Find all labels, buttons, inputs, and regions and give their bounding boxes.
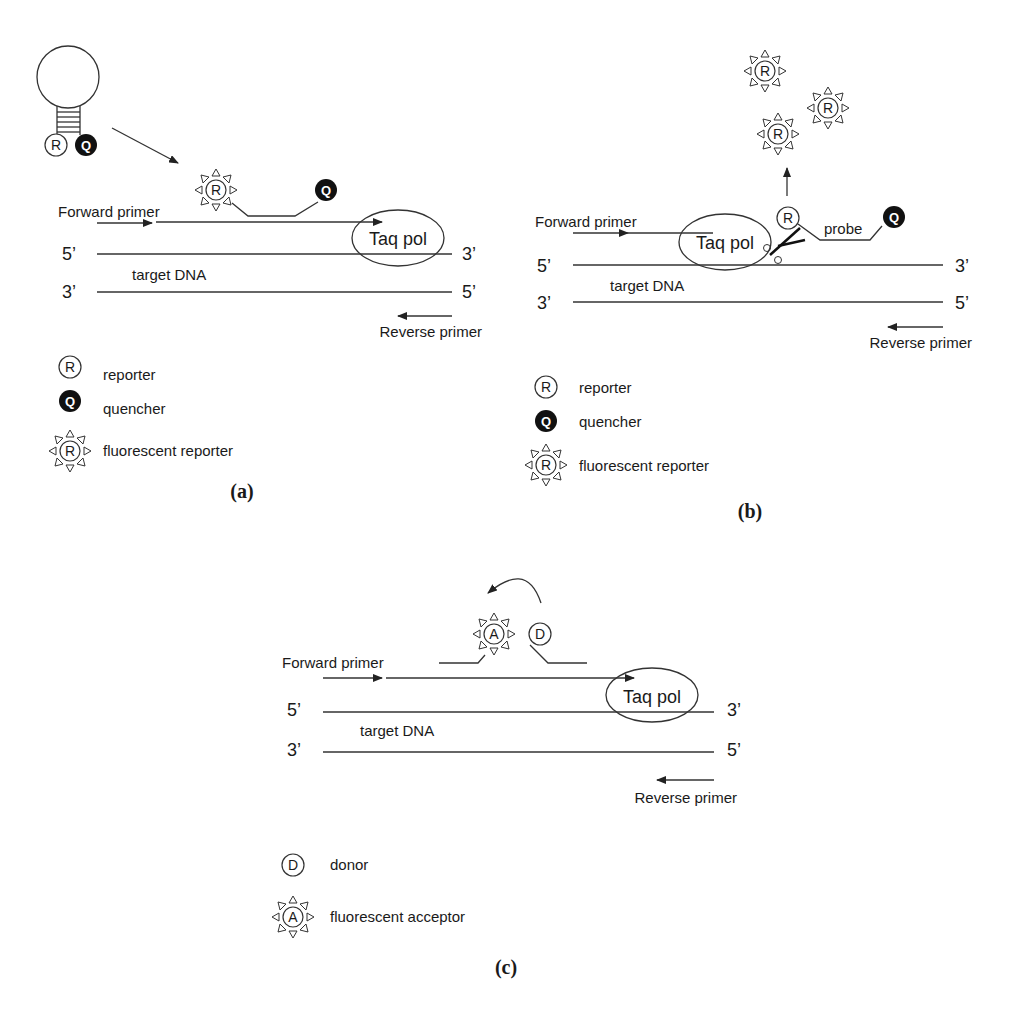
svg-text:3’: 3’ bbox=[955, 256, 969, 276]
svg-text:Q: Q bbox=[541, 414, 551, 429]
svg-text:donor: donor bbox=[330, 856, 368, 873]
svg-text:5’: 5’ bbox=[727, 740, 741, 760]
svg-text:Q: Q bbox=[889, 210, 899, 225]
svg-text:R: R bbox=[541, 457, 551, 473]
fluorescent-reporter-icon: R bbox=[757, 113, 799, 155]
reverse-primer-label: Reverse primer bbox=[379, 323, 482, 340]
svg-text:5’: 5’ bbox=[462, 282, 476, 302]
svg-text:D: D bbox=[535, 626, 545, 642]
svg-text:3’: 3’ bbox=[537, 293, 551, 313]
svg-text:R: R bbox=[760, 63, 770, 79]
svg-text:5’: 5’ bbox=[955, 293, 969, 313]
pcr-probe-diagram: R Q R Q Forward primer Taq pol 5’ 3’ tar… bbox=[0, 0, 1013, 1010]
svg-text:Q: Q bbox=[81, 138, 91, 153]
donor-probe-strand bbox=[530, 645, 587, 663]
forward-primer-label: Forward primer bbox=[282, 654, 384, 671]
fluorescent-reporter-icon: R bbox=[807, 87, 849, 129]
svg-text:quencher: quencher bbox=[103, 400, 166, 417]
svg-text:R: R bbox=[773, 126, 783, 142]
hybridize-arrow bbox=[112, 128, 178, 163]
svg-text:R: R bbox=[65, 359, 75, 375]
target-dna-label: target DNA bbox=[360, 722, 434, 739]
svg-text:Taq pol: Taq pol bbox=[369, 229, 427, 249]
molecular-beacon-icon: R Q bbox=[37, 46, 99, 156]
quencher-icon: Q bbox=[315, 179, 337, 201]
svg-text:3’: 3’ bbox=[62, 282, 76, 302]
svg-text:R: R bbox=[541, 379, 551, 395]
svg-text:fluorescent reporter: fluorescent reporter bbox=[103, 442, 233, 459]
svg-text:Q: Q bbox=[321, 183, 331, 198]
legend-b: R reporter Q quencher R fluorescent repo… bbox=[525, 376, 709, 486]
forward-primer-label: Forward primer bbox=[58, 203, 160, 220]
reporter-icon: R bbox=[777, 207, 799, 229]
svg-text:D: D bbox=[288, 857, 298, 873]
svg-text:3’: 3’ bbox=[462, 244, 476, 264]
panel-c: A D Forward primer Taq pol 5’ 3’ target … bbox=[272, 579, 741, 979]
fluorescent-reporter-icon: R bbox=[49, 430, 91, 472]
svg-text:R: R bbox=[823, 100, 833, 116]
svg-text:R: R bbox=[211, 182, 221, 198]
target-dna-label: target DNA bbox=[610, 277, 684, 294]
reverse-primer-label: Reverse primer bbox=[634, 789, 737, 806]
legend-a: R reporter Q quencher R fluorescent repo… bbox=[49, 356, 233, 472]
fluorescent-acceptor-icon: A bbox=[473, 613, 515, 655]
target-dna-label: target DNA bbox=[132, 266, 206, 283]
fluorescent-reporter-icon: R bbox=[744, 50, 786, 92]
svg-text:Taq pol: Taq pol bbox=[623, 687, 681, 707]
svg-text:R: R bbox=[65, 443, 75, 459]
svg-text:3’: 3’ bbox=[727, 700, 741, 720]
svg-text:reporter: reporter bbox=[579, 379, 632, 396]
svg-text:reporter: reporter bbox=[103, 366, 156, 383]
fluorescent-reporter-icon: R bbox=[525, 444, 567, 486]
energy-transfer-arrow bbox=[488, 579, 541, 603]
legend-c: D donor A fluorescent acceptor bbox=[272, 854, 465, 938]
svg-text:Q: Q bbox=[65, 394, 75, 409]
svg-text:fluorescent reporter: fluorescent reporter bbox=[579, 457, 709, 474]
svg-text:A: A bbox=[288, 909, 298, 925]
quencher-icon: Q bbox=[883, 206, 905, 228]
fluorescent-acceptor-icon: A bbox=[272, 896, 314, 938]
svg-text:5’: 5’ bbox=[287, 700, 301, 720]
donor-icon: D bbox=[529, 623, 551, 645]
svg-text:5’: 5’ bbox=[537, 256, 551, 276]
panel-b: R R R R probe Q Forward primer bbox=[525, 50, 972, 523]
svg-text:R: R bbox=[783, 210, 793, 226]
caption-c: (c) bbox=[495, 956, 517, 979]
svg-text:fluorescent acceptor: fluorescent acceptor bbox=[330, 908, 465, 925]
svg-text:A: A bbox=[489, 626, 499, 642]
svg-text:Taq pol: Taq pol bbox=[696, 233, 754, 253]
acceptor-probe-strand bbox=[439, 655, 485, 663]
forward-primer-label: Forward primer bbox=[535, 213, 637, 230]
caption-a: (a) bbox=[230, 480, 253, 503]
fluorescent-reporter-icon: R bbox=[195, 169, 237, 211]
probe-label: probe bbox=[824, 220, 862, 237]
caption-b: (b) bbox=[738, 500, 762, 523]
svg-text:5’: 5’ bbox=[62, 244, 76, 264]
reverse-primer-label: Reverse primer bbox=[869, 334, 972, 351]
panel-a: R Q R Q Forward primer Taq pol 5’ 3’ tar… bbox=[37, 46, 482, 503]
svg-text:3’: 3’ bbox=[287, 740, 301, 760]
probe-strand bbox=[232, 202, 318, 216]
svg-text:R: R bbox=[51, 137, 61, 153]
svg-text:quencher: quencher bbox=[579, 413, 642, 430]
scissors-icon bbox=[764, 228, 806, 264]
